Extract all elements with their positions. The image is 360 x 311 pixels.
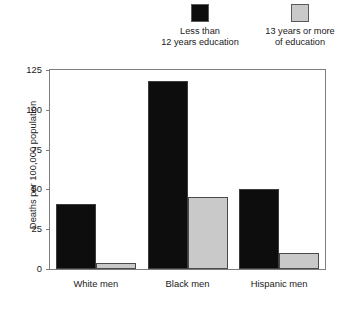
- y-axis-tick-label: 25: [2, 223, 42, 235]
- y-axis-tick-label: 125: [2, 64, 42, 76]
- bar-hispanic-men-series-2: [279, 253, 319, 269]
- y-axis-tick-label: 50: [2, 183, 42, 195]
- legend-label-line-2: 12 years education: [161, 37, 239, 48]
- bar-hispanic-men-series-1: [239, 189, 279, 269]
- bar-black-men-series-1: [148, 81, 188, 269]
- bar-black-men-series-2: [188, 197, 228, 269]
- chart-legend: Less than 12 years education 13 years or…: [150, 4, 350, 60]
- bar-white-men-series-1: [56, 204, 96, 269]
- legend-label-line-1: 13 years or more: [265, 26, 334, 37]
- y-axis-tick-mark: [46, 110, 50, 111]
- y-axis-tick-label: 100: [2, 104, 42, 116]
- bar-white-men-series-2: [96, 263, 136, 269]
- plot-inner: 0255075100125White menBlack menHispanic …: [50, 70, 325, 269]
- legend-label-line-2: of education: [265, 37, 334, 48]
- y-axis-tick-label: 0: [2, 263, 42, 275]
- y-axis-tick-mark: [46, 150, 50, 151]
- legend-label-13-years-or-more: 13 years or more of education: [265, 26, 334, 48]
- plot-area: 0255075100125White menBlack menHispanic …: [49, 69, 326, 270]
- legend-swatch-dark-icon: [191, 4, 209, 22]
- y-axis-tick-label: 75: [2, 144, 42, 156]
- y-axis-tick-mark: [46, 70, 50, 71]
- legend-swatch-light-icon: [291, 4, 309, 22]
- legend-entry-13-years-or-more: 13 years or more of education: [250, 4, 350, 60]
- y-axis-tick-mark: [46, 269, 50, 270]
- y-axis-tick-mark: [46, 189, 50, 190]
- legend-label-line-1: Less than: [161, 26, 239, 37]
- y-axis-tick-mark: [46, 229, 50, 230]
- x-axis-category-label: Hispanic men: [224, 277, 334, 291]
- legend-entry-less-than-12-years: Less than 12 years education: [150, 4, 250, 60]
- legend-label-less-than-12-years: Less than 12 years education: [161, 26, 239, 48]
